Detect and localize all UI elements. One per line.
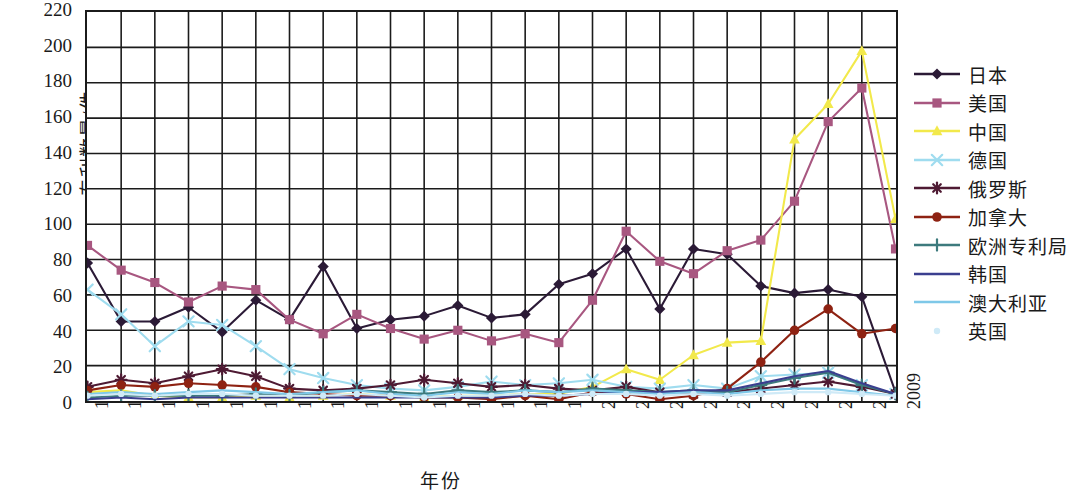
y-tick-label: 180: [26, 71, 72, 90]
data-point-circle: [823, 304, 833, 314]
data-point-square: [319, 329, 328, 338]
legend-item-1[interactable]: 美国: [912, 89, 1074, 118]
data-point-diamond: [351, 323, 362, 334]
data-point-square: [521, 329, 530, 338]
legend-symbol-dot-icon: [912, 321, 962, 341]
data-point-dot: [320, 393, 326, 399]
data-point-square: [932, 98, 941, 107]
data-point-diamond: [452, 300, 463, 311]
legend-symbol-square-icon: [912, 93, 962, 113]
data-point-square: [689, 269, 698, 278]
legend-symbol-asterisk-icon: [912, 178, 962, 198]
data-point-triangle: [890, 213, 896, 223]
legend-label: 美国: [962, 89, 1008, 116]
x-axis-title: 年份: [420, 466, 462, 493]
data-point-diamond: [931, 69, 942, 80]
legend-item-6[interactable]: 欧洲专利局: [912, 231, 1074, 260]
legend-item-8[interactable]: 澳大利亚: [912, 288, 1074, 317]
y-tick-label: 100: [26, 214, 72, 233]
chart-figure: 专利数量/件 年份 020406080100120140160180200220…: [0, 0, 1074, 501]
data-point-circle: [891, 324, 896, 334]
legend-item-0[interactable]: 日本: [912, 60, 1074, 89]
legend-item-7[interactable]: 韩国: [912, 260, 1074, 289]
data-point-dot: [724, 393, 730, 399]
legend-label: 德国: [962, 146, 1008, 173]
legend-symbol-line-icon: [912, 264, 962, 284]
legend-item-5[interactable]: 加拿大: [912, 203, 1074, 232]
y-tick-label: 120: [26, 179, 72, 198]
data-point-square: [87, 241, 92, 250]
data-point-dot: [758, 391, 764, 397]
data-point-square: [622, 227, 631, 236]
legend-item-3[interactable]: 德国: [912, 146, 1074, 175]
y-tick-label: 140: [26, 143, 72, 162]
legend-symbol-circle-icon: [912, 207, 962, 227]
data-point-square: [117, 266, 126, 275]
data-point-circle: [217, 380, 227, 390]
data-point-dot: [522, 391, 528, 397]
legend-symbol-triangle-icon: [912, 121, 962, 141]
y-tick-label: 220: [26, 0, 72, 19]
data-point-square: [285, 315, 294, 324]
data-point-square: [891, 244, 896, 253]
legend-item-9[interactable]: 英国: [912, 317, 1074, 346]
data-point-diamond: [385, 314, 396, 325]
data-point-asterisk: [932, 183, 943, 194]
y-tick-label: 200: [26, 36, 72, 55]
data-point-asterisk: [250, 371, 261, 382]
data-point-square: [453, 326, 462, 335]
data-point-circle: [790, 326, 800, 336]
data-point-dot: [488, 393, 494, 399]
data-point-diamond: [789, 288, 800, 299]
y-tick-label: 0: [26, 393, 72, 412]
data-point-diamond: [419, 311, 430, 322]
data-point-square: [386, 324, 395, 333]
legend-label: 中国: [962, 118, 1008, 145]
data-point-diamond: [856, 291, 867, 302]
data-point-square: [420, 335, 429, 344]
data-point-square: [184, 297, 193, 306]
data-point-circle: [116, 380, 126, 390]
data-point-dot: [185, 391, 191, 397]
legend-label: 澳大利亚: [962, 289, 1048, 316]
legend: 日本美国中国德国俄罗斯加拿大欧洲专利局韩国澳大利亚英国: [912, 60, 1074, 345]
data-point-square: [352, 310, 361, 319]
data-point-square: [150, 278, 159, 287]
legend-symbol-diamond-icon: [912, 64, 962, 84]
y-tick-label: 20: [26, 357, 72, 376]
legend-label: 加拿大: [962, 203, 1028, 230]
data-point-cross: [87, 284, 93, 294]
data-point-square: [218, 282, 227, 291]
data-point-dot: [455, 393, 461, 399]
data-point-square: [655, 257, 664, 266]
data-point-dot: [219, 391, 225, 397]
legend-symbol-plus-icon: [912, 235, 962, 255]
data-point-square: [723, 246, 732, 255]
data-point-dot: [657, 393, 663, 399]
y-tick-label: 80: [26, 250, 72, 269]
data-point-square: [588, 296, 597, 305]
data-point-dot: [354, 391, 360, 397]
data-point-circle: [857, 329, 867, 339]
legend-label: 韩国: [962, 260, 1008, 287]
data-point-dot: [118, 391, 124, 397]
legend-item-4[interactable]: 俄罗斯: [912, 174, 1074, 203]
data-point-dot: [286, 393, 292, 399]
data-point-dot: [556, 393, 562, 399]
data-point-circle: [932, 212, 942, 222]
data-point-dot: [623, 391, 629, 397]
data-point-asterisk: [217, 364, 228, 375]
data-point-circle: [184, 379, 194, 389]
data-point-circle: [756, 357, 766, 367]
data-point-diamond: [318, 261, 329, 272]
data-point-plus: [931, 240, 942, 251]
legend-symbol-cross-icon: [912, 150, 962, 170]
legend-label: 俄罗斯: [962, 175, 1028, 202]
data-point-square: [790, 197, 799, 206]
legend-item-2[interactable]: 中国: [912, 117, 1074, 146]
legend-label: 英国: [962, 317, 1008, 344]
plot-area: [85, 10, 898, 403]
data-point-square: [756, 236, 765, 245]
data-point-square: [554, 338, 563, 347]
data-point-dot: [690, 391, 696, 397]
